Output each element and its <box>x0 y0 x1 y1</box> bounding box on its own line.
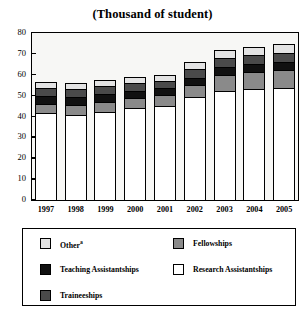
y-tick-label: 10 <box>2 174 26 182</box>
bar-segment-teaching-assistantships <box>274 63 294 71</box>
bar-segment-research-assistantships <box>36 114 56 200</box>
x-tick-label: 1999 <box>91 205 121 214</box>
x-tick-label: 1998 <box>61 205 91 214</box>
y-tick-label: 60 <box>2 70 26 78</box>
bar-segment-fellowships <box>185 86 205 98</box>
x-tick-label: 2001 <box>150 205 180 214</box>
bar-2004 <box>243 47 265 201</box>
bar-segment-other <box>244 48 264 56</box>
chart-title: (Thousand of student) <box>0 7 305 22</box>
bar-segment-fellowships <box>215 76 235 91</box>
bar-2003 <box>214 50 236 201</box>
bar-segment-research-assistantships <box>155 107 175 200</box>
bar-segment-teaching-assistantships <box>185 79 205 86</box>
y-tick-label: 40 <box>2 112 26 120</box>
bar-segment-teaching-assistantships <box>95 95 115 102</box>
legend-swatch-traineeships <box>40 290 51 301</box>
legend-item-other[interactable]: Othera <box>40 238 83 250</box>
bar-segment-research-assistantships <box>95 113 115 200</box>
bar-segment-research-assistantships <box>185 98 205 200</box>
bar-segment-fellowships <box>95 103 115 113</box>
bar-segment-traineeships <box>95 87 115 95</box>
y-tick-label: 80 <box>2 28 26 36</box>
bar-segment-other <box>274 45 294 53</box>
legend-item-traineeships[interactable]: Traineeships <box>40 290 102 301</box>
bar-2001 <box>154 75 176 201</box>
bar-segment-other <box>215 51 235 59</box>
bar-segment-fellowships <box>66 106 86 116</box>
legend-swatch-teaching-assistantships <box>40 264 51 275</box>
bar-segment-fellowships <box>244 73 264 89</box>
bar-segment-traineeships <box>244 56 264 65</box>
y-tick-label: 70 <box>2 49 26 57</box>
x-tick-label: 2003 <box>210 205 240 214</box>
bar-1997 <box>35 82 57 201</box>
legend-label-other: Othera <box>60 238 83 250</box>
x-tick-label: 1997 <box>31 205 61 214</box>
chart-legend: OtheraFellowshipsTeaching Assistantships… <box>22 228 296 306</box>
stacked-bar-chart: (Thousand of student) 80706050403020100 … <box>0 0 305 316</box>
bar-segment-fellowships <box>125 99 145 108</box>
legend-label-fellowships: Fellowships <box>193 239 232 248</box>
legend-label-research-assistantships: Research Assistantships <box>193 265 272 274</box>
bar-segment-other <box>185 63 205 70</box>
y-tick-label: 0 <box>2 195 26 203</box>
bar-segment-fellowships <box>155 96 175 106</box>
bar-segment-research-assistantships <box>215 92 235 200</box>
bar-1998 <box>65 83 87 201</box>
bar-segment-traineeships <box>155 82 175 89</box>
x-tick-label: 2002 <box>180 205 210 214</box>
bar-segment-research-assistantships <box>274 89 294 200</box>
bar-segment-teaching-assistantships <box>36 97 56 104</box>
legend-label-traineeships: Traineeships <box>60 291 102 300</box>
bar-segment-traineeships <box>125 84 145 92</box>
bar-segment-traineeships <box>215 59 235 68</box>
y-tick-label: 30 <box>2 132 26 140</box>
bar-segment-traineeships <box>274 54 294 63</box>
bar-segment-fellowships <box>274 71 294 89</box>
bar-1999 <box>94 80 116 201</box>
bars-layer <box>31 32 299 201</box>
legend-item-research-assistantships[interactable]: Research Assistantships <box>173 264 272 275</box>
bar-segment-traineeships <box>185 70 205 78</box>
legend-item-teaching-assistantships[interactable]: Teaching Assistantships <box>40 264 139 275</box>
x-tick-label: 2004 <box>239 205 269 214</box>
x-tick-label: 2005 <box>269 205 299 214</box>
legend-label-teaching-assistantships: Teaching Assistantships <box>60 265 139 274</box>
bar-2002 <box>184 62 206 201</box>
legend-swatch-research-assistantships <box>173 264 184 275</box>
bar-segment-teaching-assistantships <box>155 89 175 96</box>
bar-segment-research-assistantships <box>244 90 264 200</box>
bar-2005 <box>273 44 295 201</box>
legend-item-fellowships[interactable]: Fellowships <box>173 238 232 249</box>
y-tick-label: 50 <box>2 91 26 99</box>
bar-segment-research-assistantships <box>125 109 145 200</box>
bar-segment-fellowships <box>36 105 56 114</box>
bar-2000 <box>124 77 146 201</box>
bar-segment-teaching-assistantships <box>215 68 235 76</box>
bar-segment-traineeships <box>36 89 56 97</box>
legend-swatch-fellowships <box>173 238 184 249</box>
bar-segment-research-assistantships <box>66 116 86 200</box>
bar-segment-teaching-assistantships <box>66 98 86 105</box>
bar-segment-teaching-assistantships <box>244 65 264 73</box>
legend-footnote-marker: a <box>80 239 83 245</box>
x-tick-label: 2000 <box>120 205 150 214</box>
bar-segment-teaching-assistantships <box>125 92 145 99</box>
legend-swatch-other <box>40 238 51 249</box>
bar-segment-traineeships <box>66 90 86 98</box>
y-tick-label: 20 <box>2 153 26 161</box>
